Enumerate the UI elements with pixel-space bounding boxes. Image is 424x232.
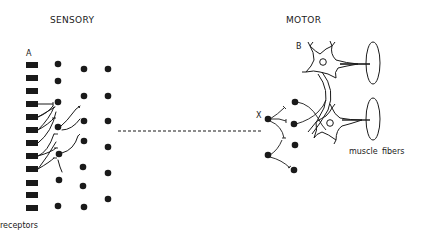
label-x: X — [256, 111, 262, 120]
receptors — [26, 62, 38, 211]
motor-synapse-ticks — [282, 106, 291, 168]
label-b: B — [296, 42, 302, 51]
receptor — [26, 205, 38, 211]
sensory-title: SENSORY — [50, 15, 94, 25]
label-a: A — [26, 49, 32, 58]
muscle-fiber-2 — [366, 98, 380, 140]
sensory-connections — [38, 104, 80, 172]
receptors-label: receptors — [0, 221, 38, 230]
sensory-column-3 — [105, 66, 112, 203]
muscle-label: muscle — [349, 147, 378, 156]
receptor — [26, 114, 38, 120]
receptor — [26, 180, 38, 186]
motor-neuron-lower — [314, 104, 370, 144]
receptor — [26, 127, 38, 133]
receptor — [26, 166, 38, 172]
receptor — [26, 140, 38, 146]
motor-title: MOTOR — [286, 15, 321, 25]
neural-diagram: SENSORY MOTOR A — [0, 0, 424, 232]
receptor — [26, 62, 38, 68]
fibers-label: fibers — [382, 147, 405, 156]
receptor — [26, 153, 38, 159]
sensory-column-1 — [55, 61, 63, 210]
receptor — [26, 101, 38, 107]
receptor — [26, 192, 38, 198]
motor-neuron-b — [302, 41, 370, 78]
sensory-column-2 — [80, 66, 88, 211]
receptor — [26, 88, 38, 94]
muscle-fiber-1 — [366, 42, 380, 84]
receptor — [26, 75, 38, 81]
